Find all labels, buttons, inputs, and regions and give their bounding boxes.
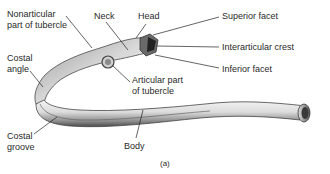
- label-superior-facet: Superior facet: [222, 11, 278, 22]
- label-neck: Neck: [94, 11, 115, 22]
- label-line: angle: [7, 64, 33, 75]
- label-costal-angle: Costal angle: [7, 53, 33, 74]
- label-line: Articular part: [132, 75, 183, 86]
- label-costal-groove: Costal groove: [7, 131, 35, 152]
- sternal-end-cavity: [302, 107, 309, 119]
- label-inferior-facet: Inferior facet: [222, 64, 272, 75]
- label-body: Body: [124, 141, 145, 152]
- label-line: groove: [7, 142, 35, 153]
- figure-caption: (a): [160, 159, 170, 170]
- label-line: part of tubercle: [7, 20, 67, 31]
- rib-body: [36, 100, 306, 127]
- label-line: Nonarticular: [7, 9, 67, 20]
- label-articular-tubercle: Articular part of tubercle: [132, 75, 183, 96]
- label-head: Head: [138, 11, 160, 22]
- label-nonarticular-tubercle: Nonarticular part of tubercle: [7, 9, 67, 30]
- label-line: Costal: [7, 131, 35, 142]
- label-line: Costal: [7, 53, 33, 64]
- label-line: of tubercle: [132, 86, 183, 97]
- rib-diagram: Nonarticular part of tubercle Neck Head …: [0, 0, 330, 174]
- label-interarticular-crest: Interarticular crest: [222, 42, 294, 53]
